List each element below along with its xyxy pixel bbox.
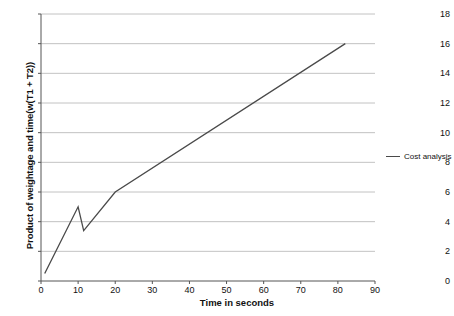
- y-tick-16: 16: [417, 39, 454, 49]
- series-line-cost-analysis: [45, 44, 346, 274]
- y-tick-18: 18: [417, 9, 454, 19]
- y-tick-4: 4: [417, 217, 454, 227]
- x-tick-50: 50: [222, 285, 232, 295]
- x-tick-90: 90: [370, 285, 380, 295]
- x-tick-0: 0: [38, 285, 43, 295]
- chart-container: Product of weightage and time(w(T1 + T2)…: [0, 0, 454, 316]
- y-axis-label: Product of weightage and time(w(T1 + T2)…: [24, 31, 35, 281]
- y-tick-6: 6: [417, 187, 454, 197]
- x-tick-40: 40: [184, 285, 194, 295]
- x-tick-10: 10: [73, 285, 83, 295]
- y-tick-14: 14: [417, 68, 454, 78]
- y-tick-2: 2: [417, 246, 454, 256]
- x-tick-80: 80: [333, 285, 343, 295]
- y-tick-12: 12: [417, 98, 454, 108]
- legend-label-cost-analysis: Cost analysis: [404, 152, 452, 161]
- legend: Cost analysis: [386, 152, 452, 161]
- x-tick-60: 60: [259, 285, 269, 295]
- x-tick-30: 30: [147, 285, 157, 295]
- y-tick-0: 0: [417, 276, 454, 286]
- x-tick-70: 70: [296, 285, 306, 295]
- x-axis-label: Time in seconds: [0, 297, 454, 308]
- x-tick-20: 20: [110, 285, 120, 295]
- y-tick-10: 10: [417, 128, 454, 138]
- legend-line-marker-icon: [386, 156, 400, 157]
